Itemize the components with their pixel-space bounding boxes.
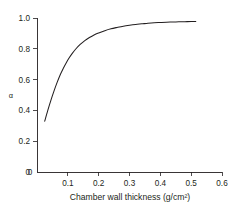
x-tick-label: 0.5	[185, 179, 197, 188]
y-tick-label: 0.6	[19, 76, 31, 85]
y-axis-title: α	[9, 91, 14, 100]
x-axis-ticks	[68, 172, 222, 176]
x-tick-label: 0.2	[93, 179, 105, 188]
y-tick-label: 1.0	[19, 14, 31, 23]
x-tick-label: 0.1	[62, 179, 74, 188]
y-tick-label: 0.2	[19, 137, 31, 146]
x-tick-label: 0.4	[155, 179, 167, 188]
y-axis-ticks	[33, 18, 37, 141]
chart-figure: 00.20.40.60.81.0 α 00.10.20.30.40.50.6 C…	[0, 0, 235, 209]
y-axis: 00.20.40.60.81.0 α	[9, 14, 37, 177]
y-tick-label: 0.4	[19, 106, 31, 115]
chart-plot-area: 00.20.40.60.81.0 α 00.10.20.30.40.50.6 C…	[0, 0, 235, 209]
y-axis-tick-labels: 00.20.40.60.81.0	[19, 14, 31, 177]
x-axis-title: Chamber wall thickness (g/cm²)	[70, 192, 190, 202]
data-curve-alpha	[45, 22, 196, 122]
x-tick-label: 0	[28, 168, 33, 177]
x-axis: 00.10.20.30.40.50.6 Chamber wall thickne…	[28, 168, 228, 202]
x-axis-tick-labels: 00.10.20.30.40.50.6	[28, 168, 228, 188]
x-tick-label: 0.3	[124, 179, 136, 188]
x-tick-label: 0.6	[216, 179, 228, 188]
data-series-group	[45, 22, 196, 122]
y-tick-label: 0.8	[19, 45, 31, 54]
